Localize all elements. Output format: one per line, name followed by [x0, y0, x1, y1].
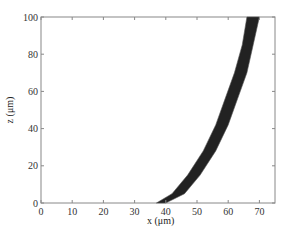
x-axis-label: x (μm) [147, 215, 174, 227]
svg-text:100: 100 [23, 12, 38, 23]
svg-text:80: 80 [28, 49, 38, 60]
y-axis-label: z (μm) [4, 97, 16, 124]
data-band [156, 17, 259, 203]
svg-text:10: 10 [67, 206, 77, 217]
svg-text:40: 40 [28, 123, 38, 134]
svg-text:60: 60 [28, 86, 38, 97]
svg-text:70: 70 [254, 206, 264, 217]
svg-text:20: 20 [98, 206, 108, 217]
y-axis: 020406080100 [23, 12, 275, 209]
svg-text:30: 30 [130, 206, 140, 217]
svg-text:0: 0 [33, 198, 38, 209]
svg-text:50: 50 [192, 206, 202, 217]
chart: 010203040506070 020406080100 x (μm) z (μ… [0, 0, 293, 236]
plot-frame [41, 17, 275, 203]
svg-text:60: 60 [223, 206, 233, 217]
svg-text:20: 20 [28, 160, 38, 171]
svg-text:0: 0 [39, 206, 44, 217]
